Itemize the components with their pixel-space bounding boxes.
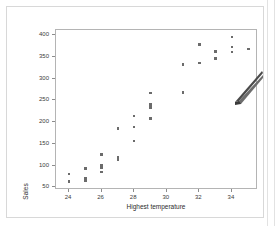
figure-card: Sales 2426283032345010015020025030035040… [6,6,264,218]
y-axis-tick [52,34,55,35]
y-axis-tick [52,78,55,79]
scatter-point [198,62,201,65]
scatter-point [100,167,103,170]
scatter-point [68,180,71,183]
x-axis-tick-label: 30 [162,194,169,201]
scatter-point [231,36,234,39]
scatter-point [214,50,217,53]
y-axis-tick [52,121,55,122]
x-axis-tick [101,189,102,192]
x-axis-tick-label: 28 [130,194,137,201]
scatter-point [100,171,103,174]
y-axis-label-container: Sales [21,102,51,114]
y-axis-tick [52,56,55,57]
y-axis-tick-label: 50 [29,183,49,190]
y-axis-tick-label: 350 [29,52,49,59]
scatter-point [231,51,234,54]
right-edge-line-b [274,0,275,226]
scatter-point [84,180,87,183]
x-axis-tick-label: 24 [65,194,72,201]
scatter-point [133,126,136,129]
scatter-point [198,43,201,46]
scatter-point [117,127,120,130]
x-axis-tick-label: 34 [228,194,235,201]
y-axis-tick-label: 300 [29,74,49,81]
screenshot-root: Sales 2426283032345010015020025030035040… [0,0,276,226]
right-edge-line-a [267,0,268,226]
y-axis-tick [52,99,55,100]
x-axis-tick [198,189,199,192]
scatter-point [68,173,71,176]
y-axis-tick-label: 200 [29,118,49,125]
y-axis-tick-label: 150 [29,139,49,146]
scatter-point [133,115,136,118]
x-axis-label: Highest temperature [55,203,257,210]
plot-frame [55,29,257,189]
y-axis-tick [52,165,55,166]
scatter-point [100,153,103,156]
scatter-point [149,117,152,120]
pencil-cursor-icon [229,71,263,111]
scatter-point [182,91,185,94]
scatter-point [231,46,234,49]
scatter-point [149,106,152,109]
scatter-point [133,140,136,143]
x-axis-tick-label: 32 [195,194,202,201]
y-axis-tick-label: 400 [29,31,49,38]
x-axis-tick [231,189,232,192]
y-axis-tick-label: 250 [29,96,49,103]
scatter-point [84,167,87,170]
scatter-point [117,158,120,161]
y-axis-tick-label: 100 [29,161,49,168]
scatter-point [149,92,152,95]
plot-area [56,30,256,188]
x-axis-tick [133,189,134,192]
scatter-point [247,48,250,51]
x-axis-tick [166,189,167,192]
y-axis-tick [52,186,55,187]
y-axis-label: Sales [22,183,29,199]
scatter-point [182,63,185,66]
y-axis-tick [52,143,55,144]
x-axis-tick-label: 26 [97,194,104,201]
x-axis-tick [68,189,69,192]
scatter-point [214,57,217,60]
